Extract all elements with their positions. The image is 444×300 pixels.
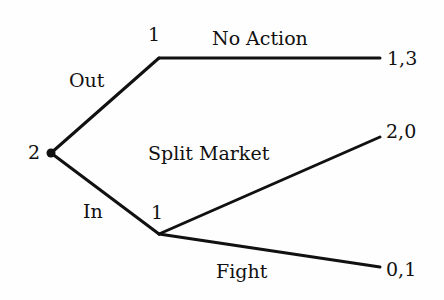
edge-label-split-market: Split Market [148, 144, 269, 163]
player-label-root: 2 [28, 143, 40, 162]
edge-label-no-action: No Action [212, 29, 308, 48]
payoff-fight: 0,1 [386, 260, 416, 279]
edge-label-fight: Fight [216, 262, 267, 281]
player-label-bottom: 1 [151, 203, 163, 222]
game-tree-diagram: 2 1 1 Out In No Action Split Market Figh… [0, 0, 444, 300]
edge-label-out: Out [69, 71, 104, 90]
root-node-dot [47, 149, 56, 158]
edge-label-in: In [83, 202, 103, 221]
payoff-split-market: 2,0 [386, 122, 416, 141]
edge-in [51, 153, 159, 234]
payoff-no-action: 1,3 [387, 49, 417, 68]
player-label-top: 1 [148, 25, 160, 44]
edge-out [51, 58, 159, 153]
edge-fight [159, 234, 380, 267]
